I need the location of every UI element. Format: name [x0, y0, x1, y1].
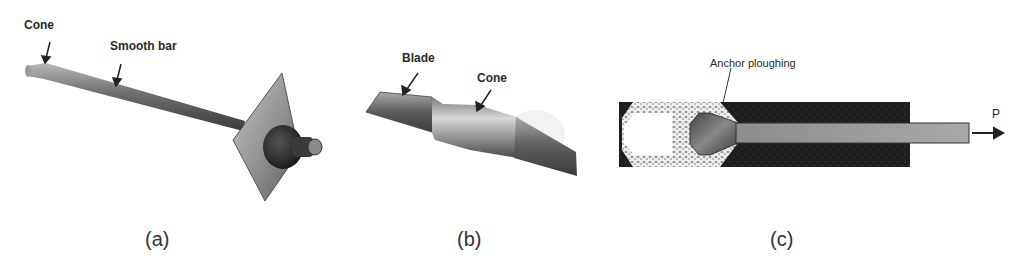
blade-cone-photo — [340, 0, 620, 260]
rod — [736, 123, 969, 143]
panel-b: Blade Cone (b) — [340, 0, 620, 260]
caption-b: (b) — [457, 228, 481, 251]
anchor-ploughing-schematic — [600, 0, 1024, 260]
caption-a: (a) — [145, 228, 169, 251]
cavity — [624, 113, 672, 155]
panel-c: Anchor ploughing P (c) — [600, 0, 1024, 260]
label-smooth-bar: Smooth bar — [110, 39, 177, 53]
blade — [366, 92, 435, 133]
label-cone-a: Cone — [24, 18, 54, 32]
label-force-p: P — [992, 107, 1000, 121]
caption-c: (c) — [770, 228, 793, 251]
label-anchor-ploughing: Anchor ploughing — [710, 57, 796, 69]
panel-a: Cone Smooth bar (a) — [0, 0, 340, 260]
nut — [263, 125, 322, 169]
smooth-bar — [25, 63, 245, 131]
arrow-cone-a — [42, 42, 50, 63]
leader-anchor-ploughing — [723, 68, 731, 103]
arrow-smooth-bar — [113, 64, 121, 86]
label-blade: Blade — [402, 51, 435, 65]
label-cone-b: Cone — [477, 71, 507, 85]
force-arrow-p — [972, 128, 1003, 138]
arrow-blade — [402, 73, 418, 95]
